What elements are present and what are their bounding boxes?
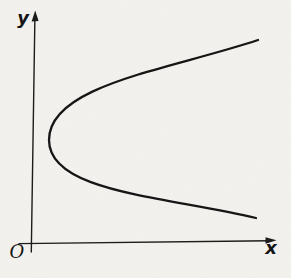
y-axis-label: y xyxy=(17,7,30,28)
parabola-figure: y x O xyxy=(0,0,291,278)
x-axis-label: x xyxy=(264,237,278,258)
paper-texture xyxy=(0,0,291,278)
plot-canvas: y x O xyxy=(0,0,291,278)
origin-label: O xyxy=(10,241,25,262)
